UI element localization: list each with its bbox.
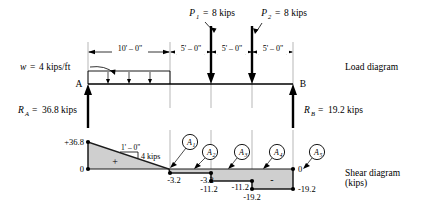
- shear-diagram-caption-line2: (kips): [345, 178, 367, 189]
- rb-subscript: B: [311, 110, 315, 117]
- a4-leader-arrowhead: [263, 163, 270, 169]
- value-at-10ft: -3.2: [167, 175, 180, 185]
- distributed-load-block: [88, 71, 170, 84]
- a5-symbol: A: [313, 148, 319, 157]
- a3-leader-arrowhead: [228, 163, 235, 169]
- a3-subscript: 3: [244, 152, 248, 158]
- ra-value: 36.8 kips: [42, 105, 77, 115]
- p1-arrowhead: [207, 73, 215, 84]
- p2-load-arrow: [248, 26, 256, 84]
- p2-equals: =: [275, 8, 280, 18]
- dimension-5ft-b: 5' – 0": [211, 44, 252, 54]
- p1-symbol: P: [188, 8, 195, 18]
- a5-subscript: 5: [320, 152, 323, 158]
- p1-load-label: P 1 = 8 kips: [188, 8, 235, 20]
- a1-symbol: A: [186, 138, 192, 147]
- area-label-a3: A 3: [228, 144, 250, 169]
- load-diagram-caption: Load diagram: [345, 62, 399, 72]
- dimension-10ft: 10' – 0": [88, 44, 170, 54]
- reaction-b-label: R B = 19.2 kips: [303, 105, 363, 117]
- p2-load-label: P 2 = 8 kips: [260, 8, 307, 20]
- a1-subscript: 1: [193, 142, 196, 148]
- node-20ft-upper: [250, 179, 254, 183]
- p1-load-arrow: [207, 26, 215, 84]
- shear-diagram-caption-line1: Shear diagram: [345, 168, 401, 178]
- w-equals: =: [30, 62, 35, 72]
- ra-arrowhead: [84, 84, 92, 95]
- dimension-5ft-a: 5' – 0": [170, 44, 211, 54]
- value-zero-right: 0: [298, 164, 302, 174]
- rb-equals: =: [318, 105, 323, 115]
- area-label-a1: A 1: [170, 134, 198, 168]
- node-zero-left: [86, 167, 90, 171]
- node-start-max: [86, 140, 90, 144]
- rb-value: 19.2 kips: [328, 105, 363, 115]
- w-value: 4 kips/ft: [39, 62, 71, 72]
- area-label-a5: A 5: [303, 144, 325, 169]
- figure-canvas: P 1 = 8 kips P 2 = 8 kips: [0, 0, 428, 216]
- a1-leader-arrowhead: [170, 162, 177, 168]
- rb-arrowhead: [289, 84, 297, 95]
- dim-label-10ft: 10' – 0": [118, 44, 143, 53]
- beam-shear-figure: P 1 = 8 kips P 2 = 8 kips: [0, 0, 428, 216]
- value-zero-left: 0: [80, 164, 84, 174]
- dim-arrow-right-10ft: [163, 50, 170, 54]
- reaction-a-arrow: [84, 84, 92, 128]
- dim-label-5ft-c: 5' – 0": [263, 44, 284, 53]
- shear-diagram-group: 1' – 0" 4 kips + - A 1 A 2 A 3: [64, 130, 400, 202]
- support-label-a: A: [76, 79, 83, 89]
- node-end-lower: [291, 187, 295, 191]
- udl-arrowhead-3: [148, 79, 152, 84]
- shear-area-a4: [211, 169, 252, 181]
- ra-equals: =: [32, 105, 37, 115]
- a2-symbol: A: [206, 148, 212, 157]
- w-symbol: w: [20, 62, 27, 72]
- value-after-p2: -19.2: [243, 192, 261, 202]
- load-diagram-group: P 1 = 8 kips P 2 = 8 kips: [17, 8, 399, 128]
- area-label-a2: A 2: [194, 144, 218, 169]
- dim-label-5ft-a: 5' – 0": [181, 44, 202, 53]
- a4-symbol: A: [273, 148, 279, 157]
- p1-subscript: 1: [196, 13, 199, 20]
- a2-leader-arrowhead: [194, 163, 201, 169]
- a5-leader-arrowhead: [303, 163, 310, 169]
- dim-label-5ft-b: 5' – 0": [222, 44, 243, 53]
- a3-symbol: A: [238, 148, 244, 157]
- value-at-20ft: -11.2: [232, 182, 249, 192]
- reaction-a-label: R A = 36.8 kips: [17, 105, 77, 117]
- w-leader-line: [90, 67, 114, 73]
- dimension-5ft-c: 5' – 0": [252, 44, 293, 54]
- p2-symbol: P: [260, 8, 267, 18]
- a2-subscript: 2: [213, 152, 216, 158]
- p2-value: 8 kips: [284, 8, 307, 18]
- dim-arrow-left-10ft: [88, 50, 95, 54]
- support-label-b: B: [300, 79, 306, 89]
- node-zero-right: [291, 167, 295, 171]
- p1-equals: =: [203, 8, 208, 18]
- distributed-load-label: w = 4 kips/ft: [20, 62, 71, 72]
- udl-arrowhead-1: [106, 79, 110, 84]
- slope-run-label: 1' – 0": [121, 143, 140, 152]
- value-end: -19.2: [298, 184, 316, 194]
- ra-subscript: A: [24, 110, 29, 117]
- negative-sign-marker: -: [270, 174, 273, 185]
- area-label-a4: A 4: [263, 144, 285, 169]
- a4-subscript: 4: [280, 152, 283, 158]
- rb-symbol: R: [303, 105, 310, 115]
- reaction-b-arrow: [289, 84, 297, 128]
- ra-symbol: R: [17, 105, 24, 115]
- p1-value: 8 kips: [212, 8, 235, 18]
- p2-subscript: 2: [268, 13, 272, 20]
- value-after-p1: -11.2: [200, 184, 217, 194]
- node-20ft-lower: [250, 187, 254, 191]
- udl-arrowhead-2: [127, 79, 131, 84]
- positive-sign-marker: +: [112, 156, 118, 167]
- value-start-max: +36.8: [64, 137, 84, 147]
- p2-arrowhead: [248, 73, 256, 84]
- slope-rise-label: 4 kips: [141, 152, 160, 161]
